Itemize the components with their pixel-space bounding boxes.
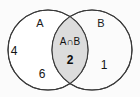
element-value-b-1: 1 xyxy=(101,58,108,72)
intersection-label: A∩B xyxy=(60,36,81,47)
element-value-a-1: 4 xyxy=(11,44,18,58)
element-value-a-2: 6 xyxy=(39,67,46,81)
intersection-value: 2 xyxy=(67,53,74,67)
venn-diagram-canvas: A B A∩B 2 4 6 1 xyxy=(0,0,140,97)
set-b-label: B xyxy=(97,17,104,29)
venn-diagram-figure: A B A∩B 2 4 6 1 xyxy=(0,0,140,97)
set-a-label: A xyxy=(36,17,44,29)
